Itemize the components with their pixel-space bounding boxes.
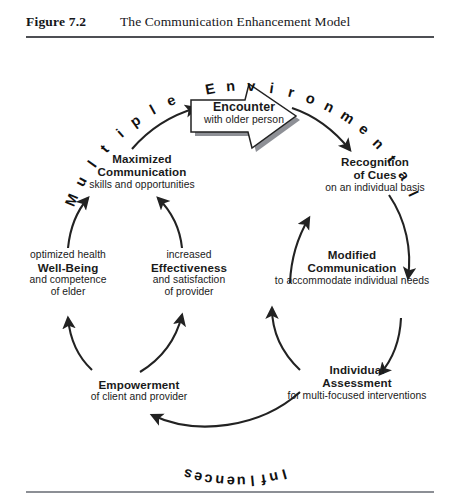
node-recognition-of-cues: Recognition of Cues on an individual bas… xyxy=(292,155,458,194)
node-maximized-communication: Maximized Communication skills and oppor… xyxy=(60,152,224,191)
figure-page: Figure 7.2 The Communication Enhancement… xyxy=(0,0,458,504)
modified-subtitle: to accommodate individual needs xyxy=(252,275,452,287)
node-modified-communication: Modified Communication to accommodate in… xyxy=(252,248,452,287)
assessment-subtitle: for multi-focused interventions xyxy=(258,390,456,402)
encounter-title: Encounter xyxy=(196,100,292,114)
wellbeing-subtitle-line1: and competence xyxy=(14,274,122,286)
arc-letter: I xyxy=(281,466,289,482)
modified-title-line2: Communication xyxy=(252,261,452,274)
maximized-title-line2: Communication xyxy=(60,165,224,178)
figure-divider-bottom xyxy=(26,491,434,493)
node-effectiveness: increased Effectiveness and satisfaction… xyxy=(139,249,239,298)
arc-letter: n xyxy=(268,469,280,487)
arc-letter: n xyxy=(214,472,224,489)
wellbeing-supertitle: optimized health xyxy=(14,249,122,261)
empowerment-title: Empowerment xyxy=(55,378,223,391)
effectiveness-subtitle-line1: and satisfaction xyxy=(139,274,239,286)
assessment-title-line2: Assessment xyxy=(258,376,456,389)
arc-letter: e xyxy=(192,469,203,486)
maximized-title-line1: Maximized xyxy=(60,152,224,165)
arc-letter: c xyxy=(203,471,213,488)
encounter-subtitle: with older person xyxy=(196,114,292,126)
empowerment-subtitle: of client and provider xyxy=(55,391,223,403)
arc-letter: f xyxy=(260,471,267,488)
node-individual-assessment: Individual Assessment for multi-focused … xyxy=(258,363,456,402)
node-encounter: Encounter with older person xyxy=(196,100,292,126)
recognition-title-line2: of Cues xyxy=(292,168,458,181)
modified-title-line1: Modified xyxy=(252,248,452,261)
recognition-subtitle: on an individual basis xyxy=(292,182,458,194)
maximized-subtitle: skills and opportunities xyxy=(60,179,224,191)
wellbeing-subtitle-line2: of elder xyxy=(14,286,122,298)
recognition-title-line1: Recognition xyxy=(292,155,458,168)
arc-letter: s xyxy=(181,466,193,484)
arc-letter: e xyxy=(226,473,235,489)
arc-letter: u xyxy=(237,473,246,489)
effectiveness-title: Effectiveness xyxy=(139,261,239,274)
wellbeing-title: Well-Being xyxy=(14,261,122,274)
effectiveness-subtitle-line2: of provider xyxy=(139,286,239,298)
effectiveness-supertitle: increased xyxy=(139,249,239,261)
assessment-title-line1: Individual xyxy=(258,363,456,376)
node-empowerment: Empowerment of client and provider xyxy=(55,378,223,403)
arc-letter: l xyxy=(250,473,256,489)
node-well-being: optimized health Well-Being and competen… xyxy=(14,249,122,298)
